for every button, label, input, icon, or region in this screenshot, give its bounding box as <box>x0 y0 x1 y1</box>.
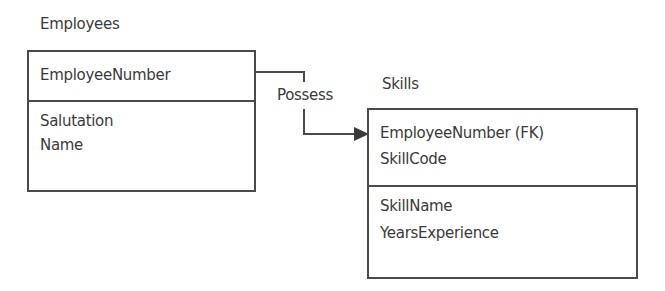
key-attribute: EmployeeNumber (FK) <box>380 122 544 145</box>
relationship-label: Possess <box>277 86 333 104</box>
entity-box-skills: EmployeeNumber (FK) SkillCode SkillName … <box>367 108 638 279</box>
attribute: YearsExperience <box>380 222 499 245</box>
key-attribute: SkillCode <box>380 148 446 171</box>
key-section-skills: EmployeeNumber (FK) SkillCode <box>369 110 636 187</box>
attribute: SkillName <box>380 195 452 218</box>
entity-title-skills: Skills <box>382 75 419 93</box>
